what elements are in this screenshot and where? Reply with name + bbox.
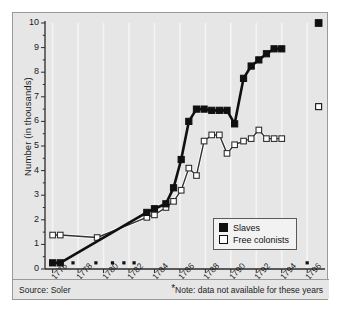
chart-legend: Slaves Free colonists (213, 218, 297, 250)
plot-area: Number (in thousands) 012345678910 17761… (13, 13, 329, 299)
legend-swatch-open-square-icon (219, 235, 228, 244)
legend-label-free-colonists: Free colonists (233, 234, 289, 246)
chart-frame: Number (in thousands) 012345678910 17761… (12, 12, 328, 300)
legend-item-slaves: Slaves (219, 222, 289, 234)
source-credit: Source: Soler (19, 285, 71, 295)
missing-data-note-text: Note: data not available for these years (175, 285, 323, 295)
legend-swatch-filled-square-icon (219, 223, 228, 232)
missing-data-note: *Note: data not available for these year… (171, 285, 323, 295)
chart-footer: Source: Soler *Note: data not available … (13, 279, 329, 299)
legend-label-slaves: Slaves (233, 222, 260, 234)
legend-item-free-colonists: Free colonists (219, 234, 289, 246)
x-axis-tick-labels: 1776177817801782178417861788179017921794… (13, 13, 329, 299)
